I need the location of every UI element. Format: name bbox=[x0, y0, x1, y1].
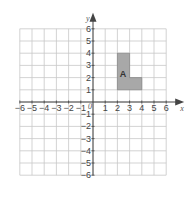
svg-text:−5: −5 bbox=[81, 158, 91, 168]
x-axis-label: x bbox=[179, 104, 184, 113]
svg-text:−2: −2 bbox=[81, 121, 91, 131]
svg-text:4: 4 bbox=[86, 48, 91, 58]
svg-text:−3: −3 bbox=[51, 103, 61, 113]
y-axis-label: y bbox=[85, 14, 90, 23]
svg-text:−5: −5 bbox=[27, 103, 37, 113]
svg-text:−6: −6 bbox=[81, 170, 91, 180]
svg-text:1: 1 bbox=[103, 103, 108, 113]
shape-a-label: A bbox=[120, 69, 127, 79]
svg-text:5: 5 bbox=[86, 36, 91, 46]
svg-text:4: 4 bbox=[139, 103, 144, 113]
svg-text:5: 5 bbox=[151, 103, 156, 113]
svg-text:2: 2 bbox=[86, 73, 91, 83]
origin-label: 0 bbox=[88, 102, 92, 111]
svg-text:2: 2 bbox=[115, 103, 120, 113]
svg-text:−6: −6 bbox=[15, 103, 25, 113]
svg-text:3: 3 bbox=[127, 103, 132, 113]
svg-text:−4: −4 bbox=[39, 103, 49, 113]
svg-text:3: 3 bbox=[86, 60, 91, 70]
svg-text:−2: −2 bbox=[63, 103, 73, 113]
svg-text:6: 6 bbox=[164, 103, 169, 113]
svg-text:6: 6 bbox=[86, 24, 91, 34]
svg-text:−4: −4 bbox=[81, 146, 91, 156]
svg-text:1: 1 bbox=[86, 85, 91, 95]
coordinate-grid: −6−5−4−3−2−1123456654321−1−2−3−4−5−6 A x… bbox=[0, 0, 188, 197]
svg-text:−3: −3 bbox=[81, 134, 91, 144]
